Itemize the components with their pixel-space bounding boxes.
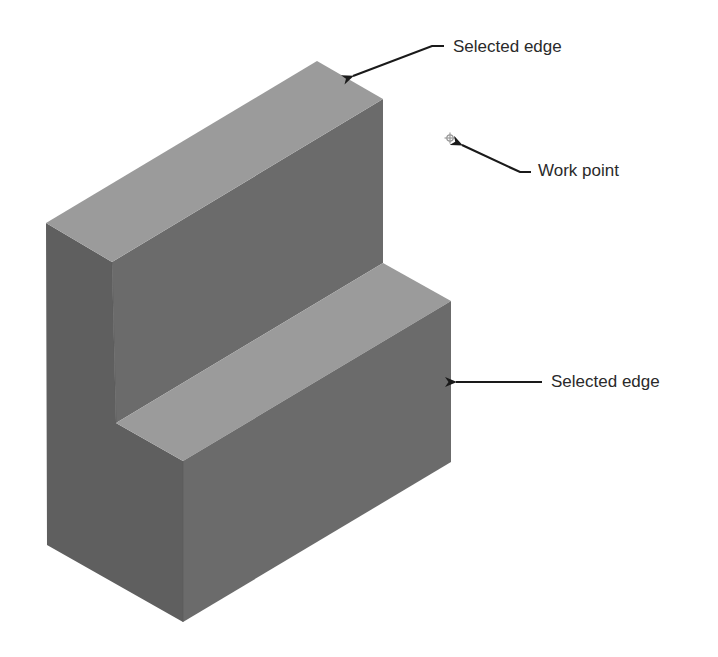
arrow-selected-edge-top: [353, 46, 444, 76]
work-point-icon[interactable]: [445, 133, 456, 144]
label-selected-edge-top: Selected edge: [453, 38, 562, 55]
label-selected-edge-right: Selected edge: [551, 373, 660, 390]
label-work-point: Work point: [538, 162, 619, 179]
stepped-block: [46, 61, 451, 622]
isometric-part-diagram: [0, 0, 718, 657]
arrow-work-point: [462, 145, 531, 172]
